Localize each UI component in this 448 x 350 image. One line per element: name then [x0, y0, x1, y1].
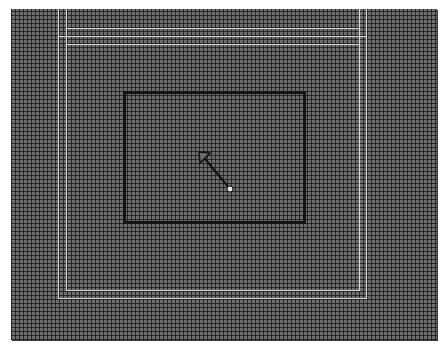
resize-cursor-icon — [194, 148, 244, 194]
guide-line-right-inner — [359, 9, 360, 290]
guide-line-top-outer — [58, 36, 367, 37]
guide-line-left-inner — [66, 9, 67, 290]
drawing-canvas[interactable] — [11, 9, 437, 340]
guide-line-bottom-inner — [66, 290, 360, 291]
guide-line-right-outer — [366, 9, 367, 298]
guide-line-top-short — [66, 28, 360, 29]
guide-line-top-inner — [66, 44, 360, 45]
guide-line-left-outer — [58, 9, 59, 298]
guide-line-bottom-outer — [58, 298, 367, 299]
